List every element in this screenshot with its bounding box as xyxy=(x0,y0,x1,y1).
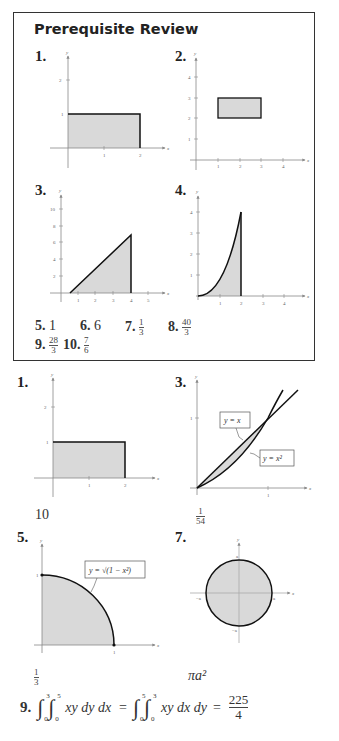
exercise-3-graph: 1 1 x y y = x y = x² xyxy=(190,374,312,498)
svg-text:2: 2 xyxy=(59,78,62,83)
svg-text:x: x xyxy=(308,486,312,491)
svg-text:4: 4 xyxy=(282,164,285,169)
svg-text:3: 3 xyxy=(260,164,263,169)
svg-text:4: 4 xyxy=(283,301,286,306)
svg-text:1: 1 xyxy=(103,153,106,158)
svg-text:4: 4 xyxy=(130,298,133,303)
svg-text:1: 1 xyxy=(113,650,116,655)
svg-text:2: 2 xyxy=(188,116,191,121)
answer-10: 10. 76 xyxy=(63,336,89,355)
callout-semicircle: y = √(1 − x²) xyxy=(88,566,131,575)
svg-text:x: x xyxy=(291,591,295,596)
svg-text:6: 6 xyxy=(53,240,56,245)
prereq-graph-4: 1 2 3 4 1 2 3 4 x y xyxy=(190,189,310,306)
svg-text:y: y xyxy=(65,50,69,55)
svg-text:4: 4 xyxy=(190,210,193,215)
rhs-integrand: xy dx dy xyxy=(161,700,207,716)
exercise-7-answer: πa² xyxy=(188,668,206,684)
graphs-canvas: 1 2 1 2 x y 1 2 3 4 1 2 3 4 x y xyxy=(0,0,339,741)
svg-text:y: y xyxy=(39,538,43,543)
prereq-graph-3: 1 2 3 4 5 2 4 6 8 10 x y xyxy=(50,188,170,303)
svg-text:2: 2 xyxy=(44,405,47,410)
svg-text:1: 1 xyxy=(188,137,191,142)
svg-text:1: 1 xyxy=(77,298,80,303)
svg-text:2: 2 xyxy=(53,274,56,279)
svg-text:a: a xyxy=(236,554,239,559)
svg-text:a: a xyxy=(273,596,276,601)
svg-text:y: y xyxy=(50,372,54,377)
svg-text:2: 2 xyxy=(124,483,127,488)
svg-text:x: x xyxy=(156,643,160,648)
exercise-5-answer: 13 xyxy=(34,668,39,687)
answer-5: 5. 1 xyxy=(35,318,56,334)
svg-text:y: y xyxy=(195,189,199,194)
exercise-7-graph: a a −a −a x y xyxy=(190,537,295,643)
exercise-1-label: 1. xyxy=(17,374,28,391)
svg-text:−a: −a xyxy=(232,628,238,633)
svg-text:2: 2 xyxy=(239,164,242,169)
svg-text:x: x xyxy=(306,158,310,163)
svg-text:y: y xyxy=(193,51,197,56)
exercise-1-answer: 10 xyxy=(35,507,49,523)
svg-text:2: 2 xyxy=(190,252,193,257)
exercise-9-label: 9. xyxy=(20,699,31,716)
svg-text:1: 1 xyxy=(88,483,91,488)
callout-y-equals-x-squared: y = x² xyxy=(262,454,283,463)
svg-text:1: 1 xyxy=(61,112,64,117)
result-fraction: 2254 xyxy=(229,693,249,722)
prereq-graph-2: 1 2 3 4 1 2 3 4 x y xyxy=(188,51,310,170)
lhs-integrand: xy dy dx xyxy=(65,700,111,716)
svg-text:x: x xyxy=(166,291,170,296)
svg-text:x: x xyxy=(166,146,170,151)
integral-sign: ∫30 xyxy=(37,695,48,721)
integral-sign: ∫50 xyxy=(48,695,59,721)
svg-text:3: 3 xyxy=(112,298,115,303)
integral-sign: ∫50 xyxy=(133,695,144,721)
answer-7: 7. 13 xyxy=(125,318,144,337)
exercise-3-answer: 154 xyxy=(196,507,205,526)
integral-sign: ∫30 xyxy=(144,695,155,721)
svg-text:1: 1 xyxy=(190,273,193,278)
svg-text:2: 2 xyxy=(240,301,243,306)
svg-text:y: y xyxy=(236,537,240,542)
exercise-5-graph: 1 1 x y y = √(1 − x²) xyxy=(34,538,160,655)
svg-text:3: 3 xyxy=(262,301,265,306)
svg-text:1: 1 xyxy=(267,493,270,498)
svg-text:3: 3 xyxy=(190,231,193,236)
svg-text:x: x xyxy=(156,476,160,481)
svg-text:y: y xyxy=(58,188,62,193)
svg-text:5: 5 xyxy=(147,298,150,303)
exercise-5-label: 5. xyxy=(17,529,28,546)
svg-text:1: 1 xyxy=(217,164,220,169)
svg-text:4: 4 xyxy=(53,257,56,262)
svg-text:8: 8 xyxy=(53,224,56,229)
answer-8: 8. 403 xyxy=(168,318,191,337)
svg-text:10: 10 xyxy=(50,207,56,212)
svg-text:1: 1 xyxy=(190,416,193,421)
exercise-3-label: 3. xyxy=(175,374,186,391)
svg-text:3: 3 xyxy=(188,96,191,101)
svg-text:1: 1 xyxy=(46,440,49,445)
exercise-7-label: 7. xyxy=(175,529,186,546)
svg-text:4: 4 xyxy=(188,75,191,80)
exercise-1-graph: 1 2 1 2 x y xyxy=(34,372,160,497)
answer-9: 9. 283 xyxy=(35,336,58,355)
svg-text:x: x xyxy=(306,294,310,299)
svg-text:−a: −a xyxy=(196,596,202,601)
callout-y-equals-x: y = x xyxy=(223,416,241,425)
answer-6: 6. 6 xyxy=(80,318,101,334)
svg-text:1: 1 xyxy=(36,573,39,578)
prereq-graph-1: 1 2 1 2 x y xyxy=(50,50,170,168)
svg-text:2: 2 xyxy=(139,153,142,158)
svg-text:y: y xyxy=(194,374,198,379)
exercise-9-equation: 9. ∫30 ∫50 xy dy dx = ∫50 ∫30 xy dx dy =… xyxy=(20,693,248,722)
svg-text:2: 2 xyxy=(94,298,97,303)
svg-text:1: 1 xyxy=(219,301,222,306)
